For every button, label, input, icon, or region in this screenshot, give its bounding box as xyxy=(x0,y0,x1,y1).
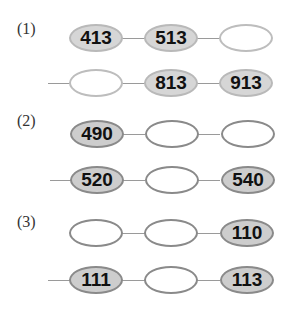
number-oval: 110 xyxy=(220,219,274,247)
blank-answer-oval[interactable] xyxy=(144,219,198,247)
section-2-label: (2) xyxy=(17,112,36,130)
blank-answer-oval[interactable] xyxy=(69,219,123,247)
section-1-label: (1) xyxy=(17,20,36,38)
number-oval: 520 xyxy=(70,166,124,194)
number-oval: 113 xyxy=(220,266,274,294)
blank-answer-oval[interactable] xyxy=(145,120,199,148)
number-oval: 413 xyxy=(69,24,123,52)
section-3-label: (3) xyxy=(17,213,36,231)
blank-answer-oval[interactable] xyxy=(219,24,273,52)
number-oval: 513 xyxy=(144,24,198,52)
number-oval: 913 xyxy=(219,69,273,97)
connector xyxy=(48,83,70,84)
connector xyxy=(50,180,72,181)
blank-answer-oval[interactable] xyxy=(145,166,199,194)
number-oval: 111 xyxy=(69,266,123,294)
connector xyxy=(48,280,70,281)
blank-answer-oval[interactable] xyxy=(221,120,275,148)
number-oval: 813 xyxy=(144,69,198,97)
blank-answer-oval[interactable] xyxy=(144,266,198,294)
number-oval: 490 xyxy=(70,120,124,148)
blank-answer-oval[interactable] xyxy=(69,69,123,97)
number-oval: 540 xyxy=(221,166,275,194)
